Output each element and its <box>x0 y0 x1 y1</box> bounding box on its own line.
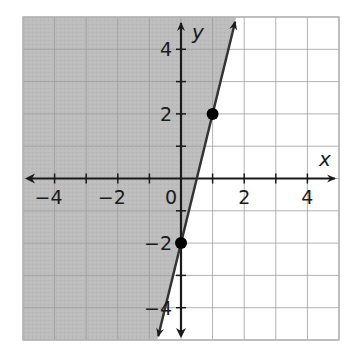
x-tick-label: −2 <box>98 186 126 208</box>
inequality-graph: −4−202442−2−4xy <box>0 0 354 364</box>
y-axis-label: y <box>191 20 205 44</box>
plotted-point <box>175 237 187 249</box>
x-tick-label: 2 <box>238 186 250 208</box>
x-tick-label: −4 <box>35 186 63 208</box>
x-tick-label-origin: 0 <box>165 186 177 208</box>
y-tick-label: −2 <box>144 232 172 254</box>
y-tick-label: 2 <box>160 103 172 125</box>
plotted-point <box>207 108 219 120</box>
y-tick-label: −4 <box>144 297 172 319</box>
x-tick-label: 4 <box>301 186 313 208</box>
x-axis-label: x <box>318 147 331 171</box>
y-tick-label: 4 <box>160 38 172 60</box>
